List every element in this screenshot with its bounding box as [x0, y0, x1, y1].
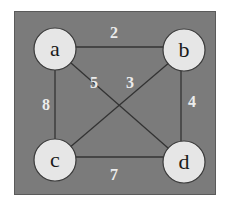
weighted-graph: 2 8 5 3 4 7 a b c d: [0, 0, 228, 210]
node-a: a: [34, 28, 76, 70]
edge-label-a-d: 5: [90, 74, 98, 91]
edge-label-c-d: 7: [110, 166, 118, 183]
node-label-c: c: [50, 147, 60, 172]
node-label-d: d: [179, 149, 190, 174]
node-label-a: a: [50, 36, 60, 61]
edges: [55, 47, 184, 162]
node-c: c: [34, 139, 76, 181]
node-label-b: b: [179, 37, 190, 62]
edge-label-b-d: 4: [188, 93, 196, 110]
edge-label-a-c: 8: [42, 96, 50, 113]
edge-label-b-c: 3: [126, 74, 134, 91]
node-b: b: [163, 29, 205, 71]
edge-label-a-b: 2: [110, 24, 118, 41]
node-d: d: [163, 141, 205, 183]
